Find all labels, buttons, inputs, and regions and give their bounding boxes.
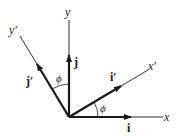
- phi-arc-y: [52, 84, 69, 89]
- i-vector-label: i: [127, 121, 131, 135]
- i-prime-vector: [69, 86, 121, 117]
- y-prime-axis-label: y′: [8, 23, 17, 37]
- j-prime-vector-label: j′: [25, 74, 33, 88]
- phi-y-label: ϕ: [56, 72, 62, 84]
- x-prime-axis-label: x′: [147, 59, 156, 73]
- phi-x-label: ϕ: [100, 102, 106, 114]
- x-axis-label: x: [163, 110, 170, 124]
- diagram-canvas: y x x′ y′ j i i′ j′ ϕ ϕ: [0, 0, 178, 137]
- y-axis-label: y: [64, 5, 71, 19]
- j-prime-vector: [37, 64, 69, 117]
- phi-arc-x: [94, 102, 98, 117]
- i-prime-vector-label: i′: [110, 70, 117, 84]
- rotated-axes-diagram: y x x′ y′ j i i′ j′ ϕ ϕ: [0, 0, 178, 137]
- j-vector-label: j: [73, 55, 78, 69]
